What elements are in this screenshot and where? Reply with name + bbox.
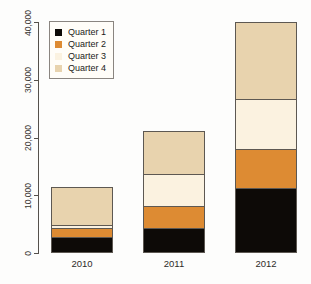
bar-segment-2012-q4 [235, 22, 297, 100]
y-axis-tick-label: 10,000 [24, 183, 33, 209]
y-axis-tick-label: 20,000 [24, 125, 33, 151]
legend-label-q1: Quarter 1 [68, 28, 106, 37]
y-axis-tick [34, 22, 39, 23]
legend-rows: Quarter 1Quarter 2Quarter 3Quarter 4 [55, 26, 106, 74]
y-axis-tick [34, 138, 39, 139]
bar-2011: 2011 [143, 131, 205, 253]
bar-segment-2010-q1 [51, 237, 113, 253]
bar-segment-2010-q4 [51, 187, 113, 226]
legend-item-q3: Quarter 3 [55, 50, 106, 62]
legend-swatch-icon-q2 [55, 41, 62, 48]
bar-2010: 2010 [51, 187, 113, 253]
y-axis-tick [34, 195, 39, 196]
legend-item-q2: Quarter 2 [55, 38, 106, 50]
bar-segment-2011-q2 [143, 206, 205, 229]
y-axis-tick [34, 253, 39, 254]
chart-legend: Quarter 1Quarter 2Quarter 3Quarter 4 [49, 21, 114, 79]
legend-label-q3: Quarter 3 [68, 52, 106, 61]
stacked-bar-chart: 010,00020,00030,00040,000 201020112012 Q… [0, 0, 311, 284]
y-axis-tick-label-wrap: 40,000 [2, 22, 32, 23]
legend-label-q2: Quarter 2 [68, 40, 106, 49]
bar-segment-2012-q3 [235, 99, 297, 150]
legend-item-q4: Quarter 4 [55, 62, 106, 74]
legend-label-q4: Quarter 4 [68, 64, 106, 73]
legend-swatch-icon-q4 [55, 65, 62, 72]
y-axis-tick-label-wrap: 20,000 [2, 138, 32, 139]
bar-segment-2011-q3 [143, 174, 205, 207]
bar-2012: 2012 [235, 22, 297, 253]
y-axis-tick-label: 40,000 [24, 10, 33, 36]
y-axis-tick-label-wrap: 0 [2, 253, 32, 254]
legend-swatch-icon-q1 [55, 29, 62, 36]
bar-segment-2012-q2 [235, 149, 297, 189]
y-axis-tick-label: 30,000 [24, 67, 33, 93]
x-axis-label-2011: 2011 [143, 258, 205, 269]
y-axis-tick [34, 80, 39, 81]
x-axis-label-2012: 2012 [235, 258, 297, 269]
y-axis-tick-label-wrap: 30,000 [2, 80, 32, 81]
bar-segment-2011-q1 [143, 228, 205, 253]
y-axis-tick-label: 0 [24, 251, 33, 256]
x-axis-label-2010: 2010 [51, 258, 113, 269]
legend-swatch-icon-q3 [55, 53, 62, 60]
y-axis-tick-label-wrap: 10,000 [2, 195, 32, 196]
legend-item-q1: Quarter 1 [55, 26, 106, 38]
bar-segment-2011-q4 [143, 131, 205, 175]
bar-segment-2012-q1 [235, 188, 297, 253]
